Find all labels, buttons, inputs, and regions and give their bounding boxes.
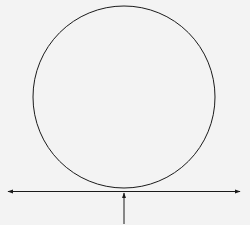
tangent-diagram (0, 0, 250, 225)
circle (33, 6, 215, 188)
diagram-canvas (0, 0, 250, 225)
